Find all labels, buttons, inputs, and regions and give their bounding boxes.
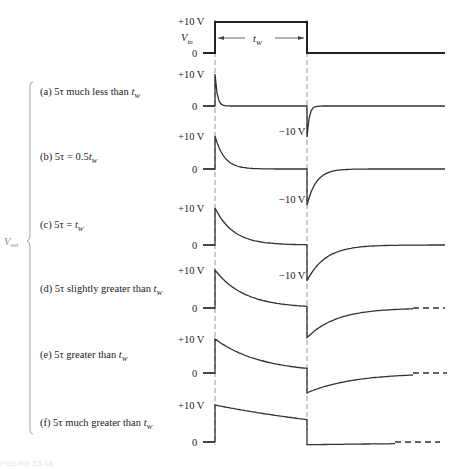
zero-level-label: 0 [192,101,197,112]
negative-level-label: −10 V [279,126,306,137]
zero-level-label: 0 [192,437,197,448]
case-label-e: (e) 5τ greater than tW [40,349,129,363]
case-e: +10 V0(e) 5τ greater than tW [40,334,447,393]
case-label-b: (b) 5τ = 0.5tW [40,151,99,165]
high-level-label: +10 V [178,334,205,345]
zero-level-label: 0 [192,164,197,175]
output-trace-a [203,74,445,137]
zero-level-label: 0 [192,368,197,379]
case-label-f: (f) 5τ much greater than tW [40,417,154,431]
curly-brace-icon [27,82,33,434]
output-trace-f [203,405,395,445]
input-pulse-trace [203,22,445,53]
case-label-d: (d) 5τ slightly greater than tW [40,283,163,297]
case-d: +10 V0(d) 5τ slightly greater than tW [40,265,445,338]
case-label-a: (a) 5τ much less than tW [40,86,141,100]
zero-level-label: 0 [192,240,197,251]
negative-level-label: −10 V [279,194,306,205]
figure-caption: FIGURE 13-18 [0,459,53,468]
vout-label: Vout [4,236,18,248]
input-high-label: +10 V [178,16,205,27]
rc-differentiator-waveform-figure: +10 V 0 Vin tW Vout +10 V0−10 V(a) 5τ mu… [0,0,464,469]
output-trace-b [203,136,445,205]
arrowhead-right-icon [298,36,304,40]
case-b: +10 V0−10 V(b) 5τ = 0.5tW [40,131,445,205]
input-low-label: 0 [192,48,197,59]
output-trace-c [203,208,445,281]
case-f: +10 V0(f) 5τ much greater than tW [40,400,440,448]
high-level-label: +10 V [178,265,205,276]
high-level-label: +10 V [178,400,205,411]
vin-label: Vin [181,32,193,46]
high-level-label: +10 V [178,131,205,142]
case-a: +10 V0−10 V(a) 5τ much less than tW [40,69,445,137]
vout-brace: Vout [4,82,33,434]
high-level-label: +10 V [178,69,205,80]
output-trace-e [203,339,413,393]
negative-level-label: −10 V [279,270,306,281]
tw-label: tW [253,33,263,47]
zero-level-label: 0 [192,303,197,314]
input-pulse: +10 V 0 Vin tW [178,16,445,59]
output-cases: +10 V0−10 V(a) 5τ much less than tW+10 V… [40,69,447,448]
case-c: +10 V0−10 V(c) 5τ = tW [40,203,445,281]
case-label-c: (c) 5τ = tW [40,219,85,233]
arrowhead-left-icon [218,36,224,40]
high-level-label: +10 V [178,203,205,214]
